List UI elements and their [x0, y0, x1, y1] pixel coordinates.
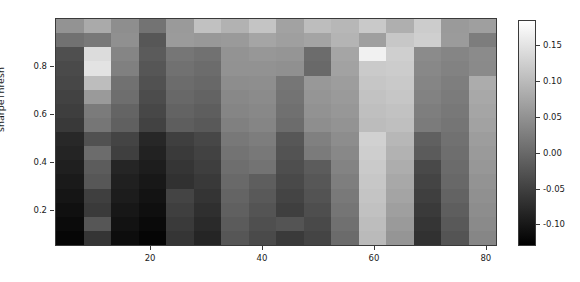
heatmap-cell [331, 33, 359, 47]
heatmap-cell [414, 19, 442, 33]
heatmap-cell [249, 203, 277, 217]
heatmap-cell [469, 174, 497, 188]
heatmap-cell [331, 231, 359, 245]
y-tick-mark [50, 114, 54, 115]
heatmap-cell [331, 90, 359, 104]
heatmap-cell [194, 160, 222, 174]
heatmap-cell [194, 104, 222, 118]
heatmap-cell [414, 174, 442, 188]
heatmap-cell [84, 90, 112, 104]
heatmap-cell [304, 19, 332, 33]
heatmap-cell [304, 160, 332, 174]
heatmap-cell [386, 146, 414, 160]
heatmap-cell [441, 203, 469, 217]
heatmap-cell [331, 160, 359, 174]
heatmap-cell [386, 76, 414, 90]
heatmap-cell [84, 132, 112, 146]
heatmap-cell [386, 33, 414, 47]
heatmap-cell [166, 160, 194, 174]
heatmap-cell [221, 118, 249, 132]
heatmap-cell [414, 47, 442, 61]
heatmap-cell [469, 217, 497, 231]
heatmap-cell [194, 90, 222, 104]
heatmap-cell [441, 160, 469, 174]
heatmap-cell [441, 146, 469, 160]
heatmap-cell [139, 104, 167, 118]
heatmap-cell [166, 189, 194, 203]
heatmap-cell [304, 132, 332, 146]
x-tick-mark [262, 246, 263, 250]
heatmap-cell [304, 47, 332, 61]
heatmap-cell [56, 33, 84, 47]
heatmap-cell [166, 76, 194, 90]
colorbar-tick-mark [536, 189, 540, 190]
heatmap-cell [84, 189, 112, 203]
heatmap-cell [84, 118, 112, 132]
heatmap-cell [359, 61, 387, 75]
heatmap-cell [304, 231, 332, 245]
heatmap-cell [304, 104, 332, 118]
heatmap-cell [139, 90, 167, 104]
heatmap-cell [84, 61, 112, 75]
heatmap-cell [359, 217, 387, 231]
heatmap-cell [304, 90, 332, 104]
x-tick-label: 20 [145, 254, 156, 263]
heatmap-cell [331, 61, 359, 75]
heatmap-cell [304, 76, 332, 90]
y-tick-mark [50, 210, 54, 211]
heatmap-cell [221, 189, 249, 203]
heatmap-cell [414, 132, 442, 146]
colorbar-tick-mark [536, 224, 540, 225]
heatmap-cell [414, 61, 442, 75]
heatmap-cell [331, 47, 359, 61]
heatmap-cell [194, 189, 222, 203]
y-tick-label: 0.2 [23, 206, 47, 215]
heatmap-cell [359, 132, 387, 146]
heatmap-cell [221, 203, 249, 217]
heatmap-cell [331, 104, 359, 118]
heatmap-cell [84, 174, 112, 188]
heatmap-cell [84, 19, 112, 33]
heatmap-figure: sharpeThresh 204060800.20.40.60.8-0.10-0… [0, 0, 580, 282]
heatmap-cell [221, 33, 249, 47]
heatmap-cell [194, 132, 222, 146]
colorbar-tick-label: 0.15 [543, 41, 562, 50]
heatmap-cell [414, 146, 442, 160]
heatmap-cell [166, 90, 194, 104]
heatmap-cell [359, 203, 387, 217]
heatmap-cell [139, 231, 167, 245]
heatmap-cell [469, 189, 497, 203]
heatmap-cell [56, 146, 84, 160]
heatmap-cell [56, 61, 84, 75]
heatmap-cell [331, 146, 359, 160]
heatmap-cell [331, 19, 359, 33]
heatmap-cell [276, 47, 304, 61]
heatmap-cell [249, 47, 277, 61]
heatmap-cell [331, 189, 359, 203]
heatmap-cell [166, 104, 194, 118]
plot-area [55, 18, 497, 246]
heatmap-cell [359, 160, 387, 174]
heatmap-cell [194, 33, 222, 47]
heatmap-cell [469, 61, 497, 75]
heatmap-cell [56, 203, 84, 217]
heatmap-cell [469, 203, 497, 217]
heatmap-cell [139, 61, 167, 75]
heatmap-cell [414, 76, 442, 90]
heatmap-cell [441, 217, 469, 231]
heatmap-cell [166, 132, 194, 146]
heatmap-cell [304, 203, 332, 217]
heatmap-cell [56, 217, 84, 231]
heatmap-cell [276, 76, 304, 90]
heatmap-cell [386, 19, 414, 33]
heatmap-cell [166, 146, 194, 160]
heatmap-cell [249, 146, 277, 160]
heatmap-cell [276, 174, 304, 188]
heatmap-cell [386, 189, 414, 203]
heatmap-cell [331, 132, 359, 146]
heatmap-cell [221, 217, 249, 231]
heatmap-cell [304, 118, 332, 132]
heatmap-cell [139, 160, 167, 174]
heatmap-cell [441, 19, 469, 33]
heatmap-cell [359, 90, 387, 104]
